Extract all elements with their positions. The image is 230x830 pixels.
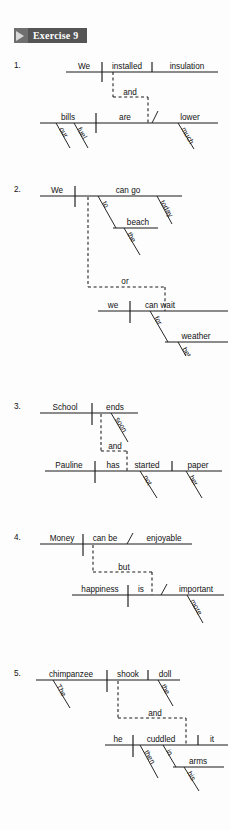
word-insulation: insulation [170,62,205,71]
diagram-item-3: 3. School ends soon and Pauline has star… [0,393,230,503]
word-chimpanzee: chimpanzee [49,670,94,679]
diagram-1-svg: 1. We installed insulation and bills are… [0,52,230,152]
modifier-much: much [179,126,196,146]
word-beach: beach [127,218,150,227]
item-number-3: 3. [14,402,21,411]
exercise-title: Exercise 9 [28,28,87,43]
word-it: it [210,735,215,744]
clause2-complement-slant [161,584,167,595]
word-paper: paper [188,461,209,470]
page-canvas: Exercise 9 1. We installed insulation an… [0,0,230,830]
conjunction-but: but [118,563,130,572]
word-can-wait: can wait [145,301,176,310]
word-school: School [52,403,77,412]
diagram-item-5: 5. chimpanzee shook doll The the and he … [0,660,230,830]
word-has: has [106,461,119,470]
word-pauline: Pauline [55,461,83,470]
diagram-2-svg: 2. We can go today to beach the or [0,176,230,356]
exercise-header: Exercise 9 [14,28,87,43]
modifier-today: today [158,199,175,219]
item-number-1: 1. [14,61,21,70]
diagram-4-svg: 4. Money can be enjoyable but happiness … [0,524,230,634]
conjunction-and: and [108,442,122,451]
modifier-The: The [54,683,68,699]
modifier-fuel: fuel [75,126,89,141]
diagram-3-svg: 3. School ends soon and Pauline has star… [0,393,230,503]
word-money: Money [50,534,75,543]
word-he: he [113,735,123,744]
word-ends: ends [106,403,124,412]
word-important: important [179,585,214,594]
word-cuddled: cuddled [147,735,176,744]
preposition-for: for [152,315,164,327]
word-we-2: we [107,301,119,310]
modifier-the: the [159,683,172,696]
word-is: is [138,585,144,594]
word-doll: doll [159,670,172,679]
modifier-soon: soon [113,416,129,434]
word-happiness: happiness [81,585,118,594]
word-we: We [51,186,64,195]
diagram-item-1: 1. We installed insulation and bills are… [0,52,230,152]
modifier-our: our [57,126,70,140]
word-can-go: can go [116,186,141,195]
word-started: started [134,461,159,470]
word-weather: weather [180,332,210,341]
item-number-4: 4. [14,533,21,542]
modifier-better: better [180,346,198,357]
word-arms: arms [189,757,207,766]
conjunction-or: or [121,277,129,286]
clause2-complement-slant [152,111,158,123]
word-lower: lower [180,113,200,122]
word-enjoyable: enjoyable [146,534,181,543]
diagram-item-4: 4. Money can be enjoyable but happiness … [0,524,230,634]
clause1-complement-slant [127,533,133,544]
triangle-right-icon [14,28,28,43]
conjunction-and: and [148,709,162,718]
diagram-item-2: 2. We can go today to beach the or [0,176,230,356]
word-can-be: can be [93,534,118,543]
modifier-then: then [142,749,157,766]
word-we: We [78,62,91,71]
item-number-5: 5. [14,669,21,678]
word-are: are [119,113,131,122]
diagram-5-svg: 5. chimpanzee shook doll The the and he … [0,660,230,830]
preposition-to: to [100,200,111,210]
item-number-2: 2. [14,185,21,194]
word-bills: bills [61,113,75,122]
conjunction-and: and [123,88,137,97]
word-shook: shook [117,670,140,679]
modifier-more: more [188,598,204,617]
word-installed: installed [112,62,142,71]
